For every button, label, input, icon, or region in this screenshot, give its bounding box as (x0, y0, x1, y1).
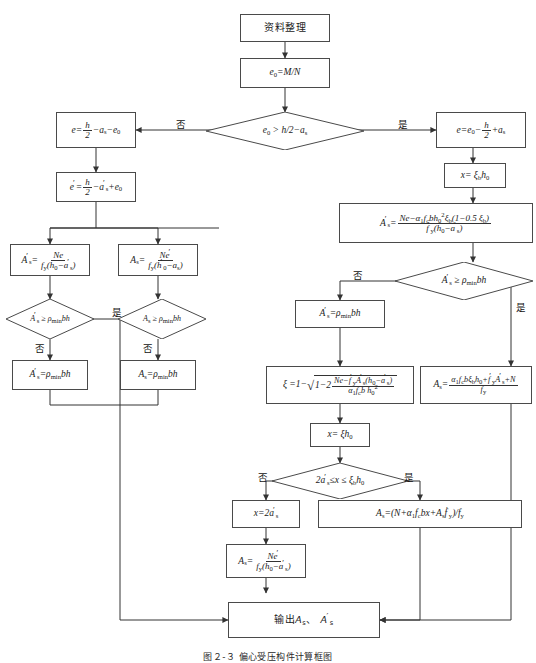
decision-x-range-label: 2a′s≤x ≤ ξbh0 (316, 476, 365, 486)
node-left-e-prime: e′=h2−a′s+e0 (56, 172, 136, 202)
label-yes-mid: 是 (112, 305, 122, 319)
node-right-x: x= ξbh0 (444, 163, 506, 188)
label-yes-Asp-right: 是 (516, 300, 526, 314)
node-right-Asp-formula-label: A′s=Ne−α1fcbh02ξb(1−0.5 ξb)f′y(h0−a′s) (380, 214, 492, 233)
label-no-As: 否 (143, 341, 153, 355)
node-left-e-label: e=h2−as−e0 (72, 121, 121, 140)
node-right-x-label: x= ξbh0 (461, 171, 489, 181)
node-output: 输出As、 A′s (228, 602, 380, 638)
node-left-As-Neprime: As=Ne′fy(h′0−as) (118, 244, 198, 276)
node-output-label: 输出As、 A′s (274, 615, 333, 626)
label-no-Asp: 否 (35, 341, 45, 355)
decision-Asp-rho: A′s ≥ ρminbh (6, 299, 94, 339)
node-As-combined-label: As=(N+α1fcbx+Asf′y)/fy (376, 509, 464, 519)
label-no-e0: 否 (176, 117, 186, 131)
node-As-Neprime2: As=Ne′fy(h0−a′s) (226, 544, 306, 578)
node-start: 资料整理 (240, 14, 330, 42)
node-left-Asp-Ne-label: A′s=Nefy(h0−a′s) (21, 251, 78, 270)
label-no-Asp-right: 否 (353, 268, 363, 282)
node-e0-label: e0=M/N (270, 68, 301, 78)
node-x-2asp-label: x=2a′s (254, 509, 278, 519)
decision-As-rho-label: As ≥ ρminbh (143, 315, 181, 323)
node-As-combined: As=(N+α1fcbx+Asf′y)/fy (318, 500, 522, 528)
node-right-Asp-formula: A′s=Ne−α1fcbh02ξb(1−0.5 ξb)f′y(h0−a′s) (339, 203, 533, 243)
decision-Asp-rho-right-label: A′s ≥ ρminbh (442, 276, 486, 286)
flowchart-canvas: 资料整理 e0=M/N e0 > h/2−as 否 是 e=h2−as−e0 e… (0, 0, 536, 663)
figure-caption: 图２-３ 偏心受压构件计算框图 (0, 650, 536, 663)
node-set-Asp-rho-right: A′s=ρminbh (295, 300, 385, 328)
label-yes-e0: 是 (398, 117, 408, 131)
decision-Asp-rho-right: A′s ≥ ρminbh (395, 262, 533, 300)
node-As-Neprime2-label: As=Ne′fy(h0−a′s) (238, 552, 293, 571)
decision-x-range: 2a′s≤x ≤ ξbh0 (272, 463, 408, 499)
node-left-e-prime-label: e′=h2−a′s+e0 (70, 178, 122, 197)
node-set-Asp-rho-label: A′s=ρminbh (30, 370, 71, 380)
label-no-x-range: 否 (258, 470, 268, 484)
node-As-big-label: As=α1fcbξbh0+f′yA′s+Nfy (433, 376, 518, 393)
node-left-As-Neprime-label: As=Ne′fy(h′0−as) (130, 251, 185, 270)
decision-e0-gt: e0 > h/2−as (206, 112, 364, 150)
node-start-label: 资料整理 (264, 23, 306, 34)
node-left-e: e=h2−as−e0 (56, 112, 136, 148)
node-right-e: e=e0−h2+as (436, 112, 526, 148)
node-set-Asp-rho-right-label: A′s=ρminbh (320, 309, 361, 319)
node-set-As-rho: As=ρminbh (120, 360, 196, 390)
node-x-xi-h0: x= ξh0 (310, 423, 370, 447)
node-set-As-rho-label: As=ρminbh (138, 370, 177, 380)
node-set-Asp-rho: A′s=ρminbh (12, 360, 88, 390)
node-right-e-label: e=e0−h2+as (457, 121, 506, 140)
node-e0: e0=M/N (240, 58, 330, 88)
node-xi-formula-label: ξ =1−√1−2Ne−f′yA′s(h0−a′s)α1fcb h02 (283, 375, 397, 394)
node-As-big: As=α1fcbξbh0+f′yA′s+Nfy (420, 366, 532, 404)
decision-Asp-rho-label: A′s ≥ ρminbh (30, 315, 70, 323)
decision-e0-gt-label: e0 > h/2−as (263, 126, 308, 136)
decision-As-rho: As ≥ ρminbh (118, 299, 206, 339)
node-left-Asp-Ne: A′s=Nefy(h0−a′s) (10, 244, 90, 276)
node-xi-formula: ξ =1−√1−2Ne−f′yA′s(h0−a′s)α1fcb h02 (266, 366, 414, 404)
node-x-2asp: x=2a′s (232, 500, 300, 528)
node-x-xi-h0-label: x= ξh0 (327, 430, 352, 440)
label-yes-x-range: 是 (404, 470, 414, 484)
